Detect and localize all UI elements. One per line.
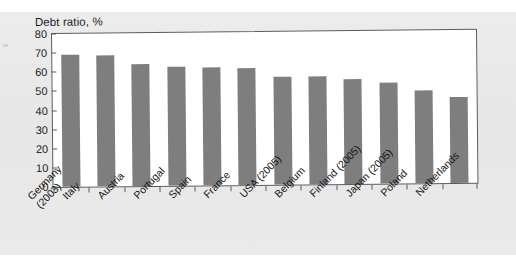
x-axis-tick-mark xyxy=(89,188,90,193)
y-axis-tick-label: 70 xyxy=(35,47,47,59)
y-axis-tick-label: 80 xyxy=(35,28,47,40)
x-axis-tick-mark xyxy=(407,185,408,190)
y-axis-tick-label: 40 xyxy=(35,104,47,116)
x-axis-tick-mark xyxy=(230,186,231,191)
y-axis-tick-label: 20 xyxy=(36,143,48,155)
scanned-page: Debt ratio, % 01020304050607080 Germany … xyxy=(0,0,516,267)
margin-scan-artifact xyxy=(3,44,8,47)
y-axis-tick-mark xyxy=(52,167,57,168)
y-axis-tick-mark xyxy=(51,72,56,73)
y-axis-tick-mark xyxy=(52,110,57,111)
x-axis-tick-mark xyxy=(160,187,161,192)
y-axis-tick-mark xyxy=(52,129,57,130)
y-axis-tick-mark xyxy=(52,148,57,149)
y-axis: 01020304050607080 xyxy=(27,33,48,188)
x-axis-tick-mark xyxy=(371,185,372,190)
bar xyxy=(379,82,398,184)
y-axis-tick-mark xyxy=(51,33,56,34)
x-axis-tick-mark xyxy=(336,185,337,190)
y-axis-tick-mark xyxy=(51,53,56,54)
x-axis-tick-mark xyxy=(476,184,477,189)
bar xyxy=(344,79,363,184)
x-axis-tick-mark xyxy=(442,184,443,189)
bar-chart-figure: Debt ratio, % 01020304050607080 Germany … xyxy=(27,12,481,256)
x-axis-tick-mark xyxy=(124,187,125,192)
bar xyxy=(450,97,469,183)
chart-title: Debt ratio, % xyxy=(35,15,103,28)
y-axis-tick-label: 50 xyxy=(35,85,47,97)
x-axis-tick-mark xyxy=(265,186,266,191)
bar xyxy=(415,91,434,184)
y-axis-tick-mark xyxy=(52,186,57,187)
y-axis-tick-label: 60 xyxy=(35,66,47,78)
y-axis-tick-mark xyxy=(52,91,57,92)
x-axis-tick-mark xyxy=(301,186,302,191)
y-axis-tick-label: 30 xyxy=(36,124,48,136)
x-axis-labels: Germany (2003)ItalyAustriaPortugalSpainF… xyxy=(54,190,485,256)
x-axis-tick-mark xyxy=(195,187,196,192)
